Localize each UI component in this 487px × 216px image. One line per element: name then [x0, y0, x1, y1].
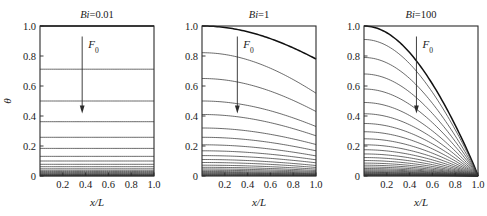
- curve-Fo-03: [202, 79, 316, 112]
- curve-Fo-10: [202, 156, 316, 163]
- y-tick-label: 0.8: [185, 51, 198, 62]
- x-tick-label: 0.4: [403, 179, 417, 190]
- y-tick-label: 1.0: [23, 21, 36, 32]
- y-tick-label: 0: [355, 171, 360, 182]
- panel-title: Bi=100: [405, 9, 436, 20]
- y-tick-label: 1.0: [185, 21, 198, 32]
- x-tick-label: 1.0: [309, 179, 322, 190]
- y-tick-label: 0.6: [23, 81, 36, 92]
- curve-Fo-07: [202, 137, 316, 151]
- x-tick-label: 0.4: [79, 179, 93, 190]
- y-tick-label: 0: [31, 171, 36, 182]
- figure-panel-row: 0.20.40.60.81.000.20.40.60.81.0x/LθBi=0.…: [0, 0, 487, 216]
- y-axis-title: θ: [1, 98, 13, 104]
- x-tick-label: 0.6: [102, 179, 115, 190]
- y-tick-label: 0.4: [23, 111, 37, 122]
- x-axis-title: x/L: [413, 196, 428, 208]
- y-tick-label: 0.8: [347, 51, 360, 62]
- x-axis-title: x/L: [251, 196, 266, 208]
- chart-panel-1: 0.20.40.60.81.000.20.40.60.81.0x/LθBi=0.…: [0, 0, 162, 216]
- y-tick-label: 0: [193, 171, 198, 182]
- y-tick-label: 1.0: [347, 21, 360, 32]
- x-tick-label: 1.0: [147, 179, 160, 190]
- chart-panel-3: 0.20.40.60.81.000.20.40.60.81.0x/LBi=100…: [324, 0, 486, 216]
- curve-group: [364, 26, 478, 176]
- curve-group: [202, 26, 316, 176]
- fourier-number-label: F0: [421, 38, 433, 55]
- x-tick-label: 0.2: [218, 179, 231, 190]
- fourier-arrow-head: [80, 106, 85, 114]
- y-tick-label: 0.2: [23, 141, 36, 152]
- x-tick-label: 0.8: [125, 179, 138, 190]
- x-axis-title: x/L: [89, 196, 104, 208]
- y-tick-label: 0.8: [23, 51, 36, 62]
- curve-Fo-02: [364, 40, 478, 177]
- y-tick-label: 0.6: [185, 81, 198, 92]
- y-tick-label: 0.4: [185, 111, 199, 122]
- y-tick-label: 0.6: [347, 81, 360, 92]
- curve-Fo-09: [202, 151, 316, 160]
- y-tick-label: 0.2: [185, 141, 198, 152]
- x-tick-label: 0.8: [449, 179, 462, 190]
- x-tick-label: 0.2: [380, 179, 393, 190]
- x-tick-label: 0.6: [264, 179, 277, 190]
- curve-Fo-08: [202, 145, 316, 156]
- panel-title: Bi=0.01: [80, 9, 114, 20]
- fourier-arrow-head: [414, 106, 419, 114]
- x-tick-label: 1.0: [471, 179, 484, 190]
- y-tick-label: 0.2: [347, 141, 360, 152]
- curve-Fo-04: [202, 101, 316, 127]
- panel-title: Bi=1: [249, 9, 270, 20]
- x-tick-label: 0.6: [426, 179, 439, 190]
- x-tick-label: 0.8: [287, 179, 300, 190]
- x-tick-label: 0.4: [241, 179, 255, 190]
- x-tick-label: 0.2: [56, 179, 69, 190]
- chart-panel-2: 0.20.40.60.81.000.20.40.60.81.0x/LBi=1F0: [162, 0, 324, 216]
- fourier-arrow-head: [235, 106, 240, 114]
- y-tick-label: 0.4: [347, 111, 361, 122]
- fourier-number-label: F0: [242, 38, 254, 55]
- fourier-number-label: F0: [87, 38, 99, 55]
